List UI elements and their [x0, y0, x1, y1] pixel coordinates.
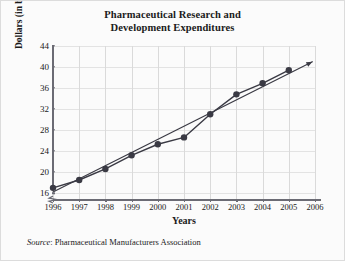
y-axis-tick-mark	[52, 171, 55, 172]
x-axis-tick-mark	[315, 199, 316, 202]
vertical-gridline	[79, 46, 80, 201]
x-axis-tick-mark	[289, 199, 290, 202]
x-axis-label: Years	[53, 215, 315, 226]
x-axis-tick-mark	[184, 199, 185, 202]
vertical-gridline	[105, 46, 106, 201]
y-axis-tick-label: 16	[23, 188, 49, 198]
y-axis-tick-mark	[52, 45, 55, 46]
vertical-gridline	[210, 46, 211, 201]
vertical-gridline	[263, 46, 264, 201]
y-axis-tick-label: 44	[23, 41, 49, 51]
vertical-gridline	[236, 46, 237, 201]
y-axis-tick-mark	[52, 192, 55, 193]
x-axis-tick-mark	[210, 199, 211, 202]
x-axis-tick-mark	[263, 199, 264, 202]
y-axis-tick-mark	[52, 129, 55, 130]
x-axis-tick-mark	[105, 199, 106, 202]
chart-title-line-2: Development Expenditures	[1, 22, 344, 35]
x-axis-tick-mark	[236, 199, 237, 202]
y-axis-tick-label: 40	[23, 62, 49, 72]
y-axis-tick-label: 20	[23, 167, 49, 177]
y-axis-tick-label: 32	[23, 104, 49, 114]
y-axis-tick-labels: 1620242832364044	[21, 46, 49, 201]
y-axis-tick-mark	[52, 108, 55, 109]
source-note: Source: Pharmaceutical Manufacturers Ass…	[27, 237, 201, 247]
x-axis-tick-mark	[132, 199, 133, 202]
vertical-gridline	[132, 46, 133, 201]
x-axis-tick-labels: 1996199719981999200020012002200320042005…	[53, 202, 315, 216]
y-axis-tick-label: 24	[23, 146, 49, 156]
y-axis-tick-label: 36	[23, 83, 49, 93]
y-axis-tick-mark	[52, 66, 55, 67]
y-axis-tick-mark	[52, 87, 55, 88]
vertical-gridline	[184, 46, 185, 201]
chart-title: Pharmaceutical Research and Development …	[1, 9, 344, 34]
x-axis-line	[53, 199, 321, 201]
vertical-gridline	[158, 46, 159, 201]
y-axis-tick-label: 28	[23, 125, 49, 135]
source-note-text: Pharmaceutical Manufacturers Association	[55, 237, 201, 247]
x-axis-tick-mark	[53, 199, 54, 202]
chart-title-line-1: Pharmaceutical Research and	[104, 9, 241, 20]
y-axis-tick-mark	[52, 150, 55, 151]
x-axis-tick-label: 2006	[298, 202, 332, 212]
chart-figure: Pharmaceutical Research and Development …	[0, 0, 345, 261]
x-axis-tick-mark	[79, 199, 80, 202]
plot-area	[53, 46, 315, 201]
x-axis-tick-mark	[158, 199, 159, 202]
source-note-label: Source	[27, 237, 50, 247]
vertical-gridline	[315, 46, 316, 201]
vertical-gridline	[289, 46, 290, 201]
